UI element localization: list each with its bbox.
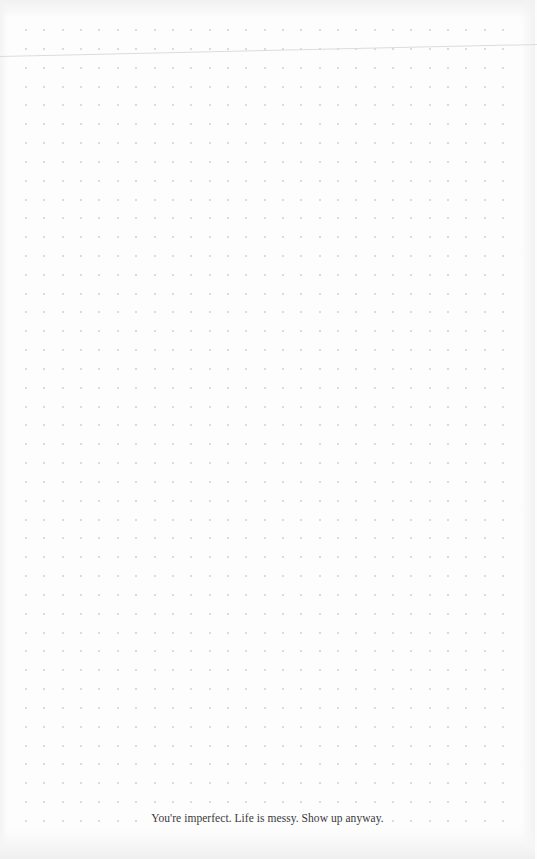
grid-dot [337,613,339,615]
grid-dot [410,161,412,163]
grid-dot [80,274,82,276]
grid-dot [135,406,137,408]
grid-dot [392,613,394,615]
grid-dot [135,236,137,238]
grid-dot [25,575,27,577]
grid-dot [429,123,431,125]
grid-dot [190,763,192,765]
grid-dot [300,387,302,389]
grid-dot [209,632,211,634]
grid-dot [25,424,27,426]
grid-dot [392,801,394,803]
grid-dot [429,424,431,426]
grid-dot [337,726,339,728]
grid-dot [410,180,412,182]
grid-dot [154,500,156,502]
grid-dot [25,688,27,690]
grid-dot [117,330,119,332]
grid-dot [502,650,504,652]
grid-dot [282,688,284,690]
grid-dot [190,707,192,709]
grid-dot [264,293,266,295]
grid-dot [337,274,339,276]
grid-dot [264,29,266,31]
grid-dot [43,349,45,351]
grid-dot [502,368,504,370]
grid-dot [447,199,449,201]
grid-dot [227,311,229,313]
grid-dot [43,782,45,784]
grid-dot [43,217,45,219]
grid-dot [484,199,486,201]
grid-dot [43,519,45,521]
grid-dot [282,707,284,709]
grid-dot [245,537,247,539]
grid-dot [245,424,247,426]
grid-dot [43,387,45,389]
grid-dot [374,763,376,765]
grid-dot [190,745,192,747]
grid-dot [98,537,100,539]
grid-dot [447,161,449,163]
grid-dot [355,632,357,634]
grid-dot [355,519,357,521]
grid-dot [502,180,504,182]
grid-dot [429,556,431,558]
grid-dot [319,67,321,69]
grid-dot [154,217,156,219]
grid-dot [190,782,192,784]
grid-dot [135,274,137,276]
grid-dot [392,274,394,276]
grid-dot [154,142,156,144]
grid-dot [135,500,137,502]
grid-dot [410,86,412,88]
grid-dot [172,104,174,106]
grid-dot [135,519,137,521]
grid-dot [300,180,302,182]
grid-dot [227,481,229,483]
grid-dot [98,330,100,332]
grid-dot [264,594,266,596]
grid-dot [25,707,27,709]
grid-dot [300,782,302,784]
grid-dot [410,293,412,295]
grid-dot [25,217,27,219]
grid-dot [337,594,339,596]
grid-dot [319,236,321,238]
grid-dot [319,406,321,408]
grid-dot [300,255,302,257]
grid-dot [245,142,247,144]
grid-dot [374,556,376,558]
grid-dot [355,443,357,445]
grid-dot [282,481,284,483]
grid-dot [337,67,339,69]
grid-dot [429,462,431,464]
grid-dot [502,669,504,671]
grid-dot [429,575,431,577]
grid-dot [227,707,229,709]
grid-dot [154,123,156,125]
grid-dot [355,311,357,313]
grid-dot [98,104,100,106]
grid-dot [429,745,431,747]
grid-dot [154,236,156,238]
grid-dot [190,575,192,577]
grid-dot [43,594,45,596]
grid-dot [355,613,357,615]
grid-dot [154,801,156,803]
grid-dot [117,293,119,295]
grid-dot [264,330,266,332]
grid-dot [374,67,376,69]
grid-dot [447,594,449,596]
grid-dot [300,67,302,69]
grid-dot [264,236,266,238]
grid-dot [484,406,486,408]
grid-dot [135,330,137,332]
grid-dot [484,67,486,69]
grid-dot [190,481,192,483]
grid-dot [355,688,357,690]
grid-dot [300,632,302,634]
grid-dot [135,481,137,483]
grid-dot [392,594,394,596]
grid-dot [117,519,119,521]
